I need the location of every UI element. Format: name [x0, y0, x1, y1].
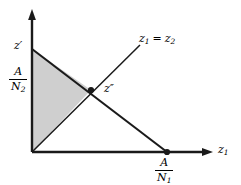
- x-axis-label-subscript: 1: [224, 148, 229, 157]
- x-intercept-fraction-label: A N1: [155, 157, 173, 184]
- label-z-prime-mark: ′: [20, 39, 23, 52]
- shaded-triangle-region: [32, 49, 91, 152]
- y-intercept-denominator-base: N: [11, 80, 21, 93]
- label-equal-allocation-line: z1=z2: [139, 33, 175, 45]
- x-axis-label: z1: [218, 144, 229, 156]
- x-axis-arrowhead-icon: [202, 148, 213, 156]
- y-intercept-denominator: N2: [9, 81, 27, 93]
- y-axis-arrowhead-icon: [28, 9, 36, 20]
- label-z2-subscript: 2: [171, 37, 176, 46]
- label-z1-subscript: 1: [145, 37, 150, 46]
- label-z-prime: z′: [14, 40, 22, 51]
- x-intercept-denominator-subscript: 1: [167, 175, 172, 184]
- y-intercept-denominator-subscript: 2: [21, 84, 26, 93]
- x-intercept-point-marker: [164, 149, 170, 155]
- intersection-point-marker: [88, 87, 94, 93]
- label-equals-sign: =: [150, 32, 165, 45]
- x-intercept-numerator: A: [155, 157, 173, 169]
- y-intercept-fraction-label: A N2: [9, 66, 27, 93]
- x-intercept-denominator-base: N: [157, 171, 167, 184]
- label-z-double-prime-mark: ″: [110, 82, 114, 95]
- label-z-double-prime: z″: [104, 83, 114, 94]
- y-intercept-numerator: A: [9, 66, 27, 78]
- budget-constraint-diagram: [0, 0, 241, 185]
- x-intercept-denominator: N1: [155, 172, 173, 184]
